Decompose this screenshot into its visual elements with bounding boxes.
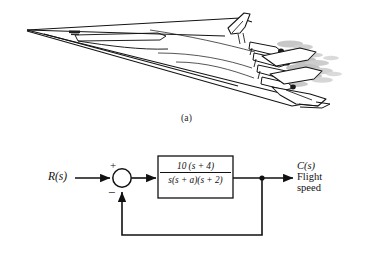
output-symbol: C(s) xyxy=(297,160,322,171)
caption-a: (a) xyxy=(0,113,373,123)
transfer-function-expression: 10 (s + 4) s(s + a)(s + 2) xyxy=(160,161,231,185)
panel-b-block-diagram: (b) xyxy=(0,135,373,264)
block-diagram-graphics xyxy=(0,135,373,264)
output-description-line1: Flight xyxy=(297,171,322,182)
summing-junction-plus-sign: + xyxy=(110,160,116,172)
output-label-group: C(s) Flight speed xyxy=(297,160,322,193)
figure-page: (a) (b) R(s xyxy=(0,0,373,264)
summing-junction-minus-sign: − xyxy=(108,186,115,200)
output-description-line2: speed xyxy=(297,182,322,193)
transfer-function-numerator: 10 (s + 4) xyxy=(160,161,231,172)
panel-a-aircraft-illustration: (a) xyxy=(0,0,373,135)
transfer-function-denominator: s(s + a)(s + 2) xyxy=(160,174,231,185)
fraction-bar xyxy=(160,172,231,173)
input-label: R(s) xyxy=(48,170,67,182)
